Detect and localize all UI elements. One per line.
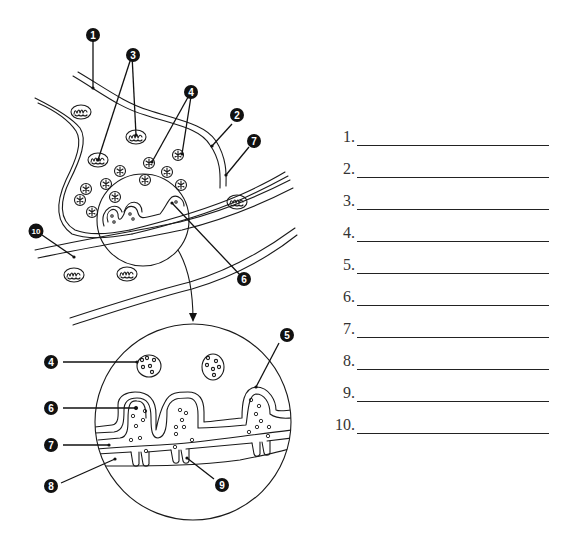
svg-text:4: 4 (48, 357, 54, 368)
callout-3: 3 (126, 48, 140, 62)
answer-blank[interactable] (357, 177, 549, 178)
svg-text:7: 7 (48, 440, 54, 451)
answer-list: 1. 2. 3. 4. 5. 6. 7. 8. 9. 10. (325, 0, 575, 551)
neurotransmitter (129, 398, 270, 452)
detail-callout-8: 8 (44, 479, 58, 493)
answer-row-4[interactable]: 4. (325, 222, 555, 244)
mitochondrion (117, 267, 137, 281)
answer-row-6[interactable]: 6. (325, 286, 555, 308)
svg-text:4: 4 (188, 87, 194, 98)
answer-blank[interactable] (357, 241, 549, 242)
mitochondrion (71, 105, 91, 119)
svg-text:3: 3 (130, 50, 136, 61)
answer-blank[interactable] (357, 401, 549, 402)
callout-4: 4 (184, 85, 198, 99)
svg-text:5: 5 (284, 330, 290, 341)
svg-text:2: 2 (234, 110, 240, 121)
answer-blank[interactable] (357, 209, 549, 210)
answer-number: 2. (343, 160, 355, 178)
postsynaptic-membrane-lower (70, 228, 295, 318)
callout-7: 7 (247, 134, 261, 148)
callout-6: 6 (237, 272, 251, 286)
answer-number: 5. (343, 256, 355, 274)
answer-blank[interactable] (357, 337, 549, 338)
answer-number: 9. (343, 384, 355, 402)
detail-callout-7: 7 (44, 438, 58, 452)
mitochondrion (227, 195, 247, 209)
presynaptic-membrane-left (35, 98, 130, 234)
answer-blank[interactable] (357, 145, 549, 146)
detail-diagram: 4 6 7 8 5 9 (44, 324, 294, 520)
svg-text:9: 9 (219, 480, 225, 491)
detail-callout-5: 5 (280, 328, 294, 342)
svg-text:6: 6 (241, 274, 247, 285)
answer-row-1[interactable]: 1. (325, 126, 555, 148)
answer-number: 3. (343, 192, 355, 210)
answer-row-3[interactable]: 3. (325, 190, 555, 212)
answer-row-9[interactable]: 9. (325, 382, 555, 404)
answer-blank[interactable] (357, 433, 549, 434)
callout-1: 1 (86, 28, 100, 42)
magnify-region (97, 174, 189, 266)
answer-number: 10. (335, 416, 355, 434)
receptor (171, 449, 189, 463)
overview-diagram: 1 3 4 2 7 10 6 (29, 28, 298, 325)
svg-text:8: 8 (48, 481, 54, 492)
detail-callout-4: 4 (44, 355, 58, 369)
answer-number: 6. (343, 288, 355, 306)
detail-circle (95, 324, 291, 520)
answer-row-5[interactable]: 5. (325, 254, 555, 276)
answer-row-7[interactable]: 7. (325, 318, 555, 340)
detail-callout-6: 6 (44, 401, 58, 415)
answer-number: 1. (343, 128, 355, 146)
receptor (131, 452, 149, 466)
arrow-icon (189, 313, 197, 322)
answer-row-8[interactable]: 8. (325, 350, 555, 372)
svg-text:1: 1 (90, 30, 96, 41)
answer-number: 8. (343, 352, 355, 370)
answer-blank[interactable] (357, 273, 549, 274)
presynaptic-membrane-upper (73, 76, 220, 188)
answer-number: 4. (343, 224, 355, 242)
answer-number: 7. (343, 320, 355, 338)
svg-text:6: 6 (48, 403, 54, 414)
svg-text:7: 7 (251, 136, 257, 147)
callout-10: 10 (29, 224, 44, 239)
callout-2: 2 (230, 108, 244, 122)
synaptic-membrane (130, 172, 285, 230)
answer-blank[interactable] (357, 369, 549, 370)
answer-row-10[interactable]: 10. (325, 414, 555, 436)
answer-blank[interactable] (357, 305, 549, 306)
answer-row-2[interactable]: 2. (325, 158, 555, 180)
svg-text:10: 10 (32, 227, 41, 236)
mitochondrion (64, 268, 84, 282)
detail-callout-9: 9 (215, 478, 229, 492)
